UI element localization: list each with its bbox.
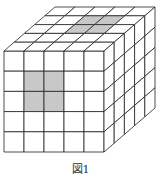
front-face-cell	[64, 112, 84, 132]
front-face-cell	[64, 132, 84, 152]
front-face-cell	[24, 132, 44, 152]
front-face-cell	[84, 71, 104, 91]
front-face-cell	[64, 91, 84, 111]
front-face-cell	[44, 51, 64, 71]
front-face-cell	[64, 51, 84, 71]
front-face-cell	[24, 51, 44, 71]
front-face-cell	[44, 71, 64, 91]
front-face-cell	[84, 91, 104, 111]
front-face-cell	[4, 132, 24, 152]
front-face-cell	[24, 71, 44, 91]
front-face-cell	[84, 51, 104, 71]
front-face-cell	[24, 112, 44, 132]
front-face-cell	[84, 132, 104, 152]
front-face-cell	[64, 71, 84, 91]
front-face-cell	[44, 112, 64, 132]
front-face-cell	[4, 112, 24, 132]
front-face-cell	[4, 51, 24, 71]
cube-diagram	[0, 0, 161, 158]
front-face-cell	[4, 91, 24, 111]
front-face-cell	[4, 71, 24, 91]
front-face-cell	[44, 132, 64, 152]
front-face-cell	[24, 91, 44, 111]
front-face-cell	[44, 91, 64, 111]
figure-caption: 図1	[0, 160, 161, 176]
front-face-cell	[84, 112, 104, 132]
